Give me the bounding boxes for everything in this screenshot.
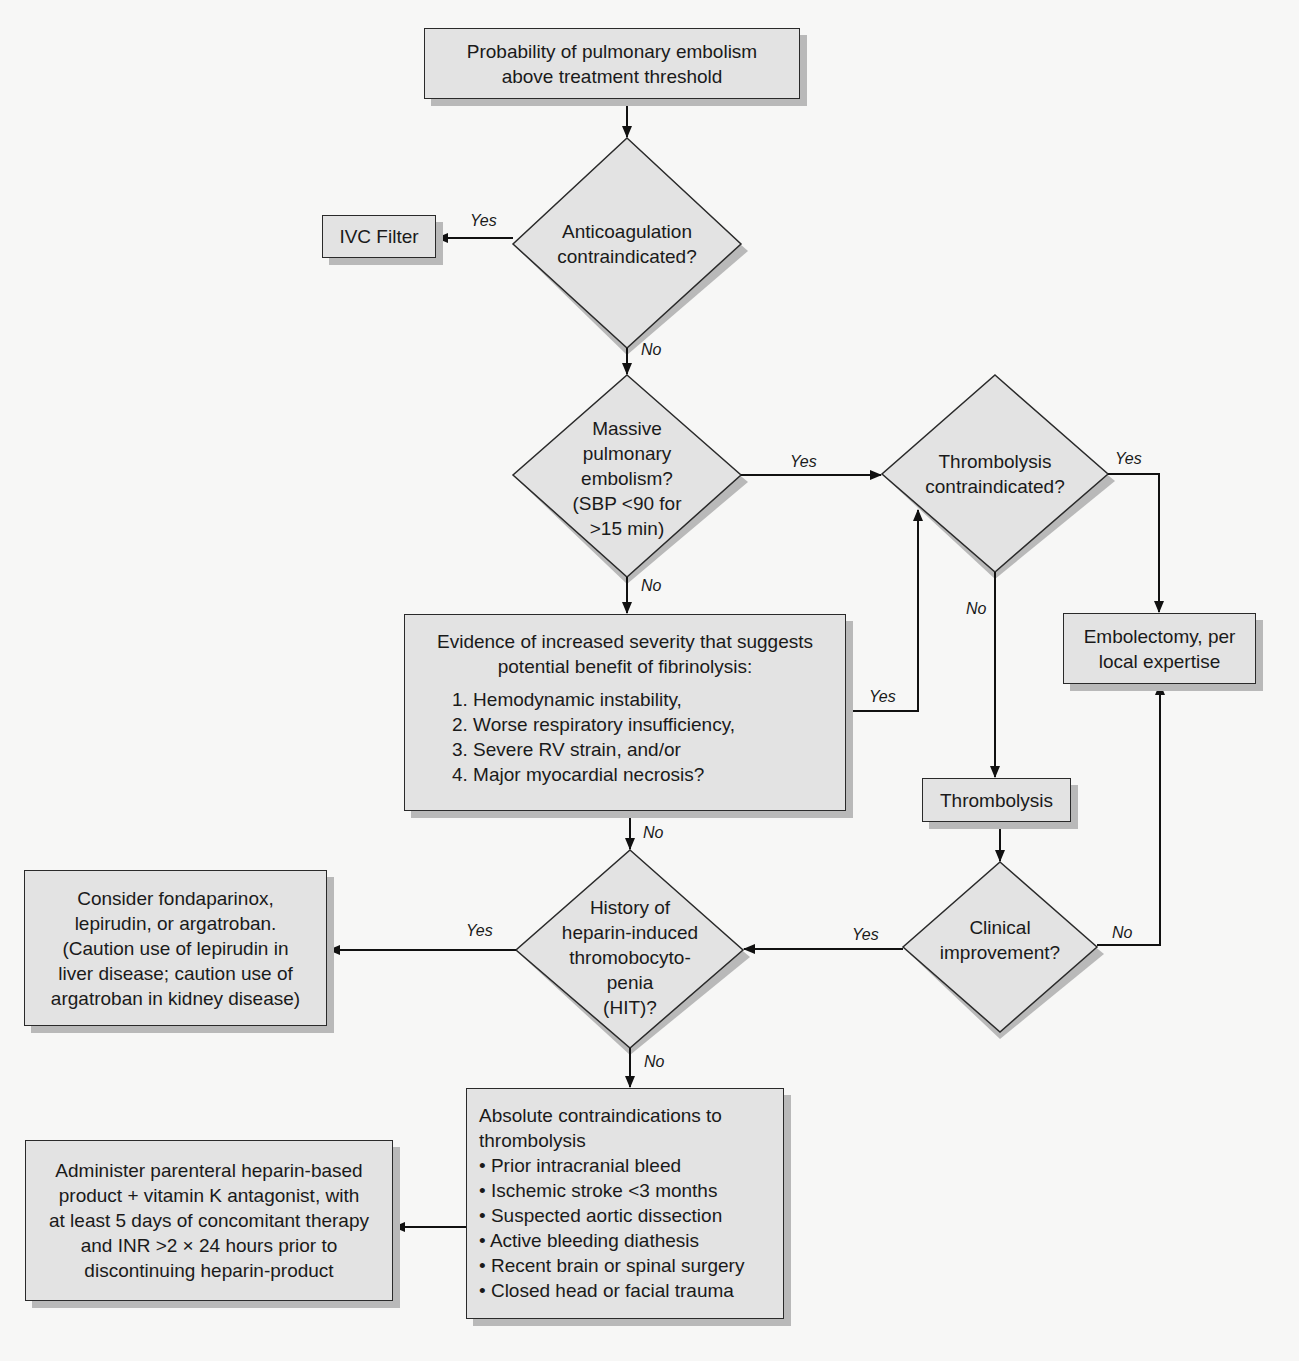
severity-criteria-list: 1. Hemodynamic instability, 2. Worse res… — [452, 687, 735, 787]
node-text: (SBP <90 for — [573, 491, 682, 516]
node-text: argatroban in kidney disease) — [51, 986, 300, 1011]
start-node: Probability of pulmonary embolism above … — [424, 28, 800, 99]
node-text: IVC Filter — [339, 224, 418, 249]
node-text: Consider fondaparinox, — [77, 886, 273, 911]
node-text: at least 5 days of concomitant therapy — [49, 1208, 369, 1233]
hit-decision-text: History of heparin-induced thromobocyto-… — [540, 893, 720, 1021]
node-text: Massive — [592, 416, 662, 441]
node-text: above treatment threshold — [502, 64, 723, 89]
node-text: thromobocyto- — [569, 945, 690, 970]
edge-label-no: No — [1112, 924, 1132, 942]
massive-pe-decision-text: Massive pulmonary embolism? (SBP <90 for… — [537, 411, 717, 545]
node-text: contraindicated? — [557, 244, 696, 269]
node-heading: Absolute contraindications to — [479, 1103, 722, 1128]
edge-label-yes: Yes — [1115, 450, 1142, 468]
thrombolysis-node: Thrombolysis — [922, 778, 1071, 822]
node-text: and INR >2 × 24 hours prior to — [81, 1233, 338, 1258]
arrow-evidence-yes-thrombo-contra — [846, 510, 918, 711]
node-text: (Caution use of lepirudin in — [62, 936, 288, 961]
edge-label-yes: Yes — [790, 453, 817, 471]
edge-label-no: No — [966, 600, 986, 618]
list-item: • Suspected aortic dissection — [479, 1203, 722, 1228]
absolute-contraindications-node: Absolute contraindications to thrombolys… — [466, 1088, 784, 1319]
node-text: contraindicated? — [925, 474, 1064, 499]
node-text: (HIT)? — [603, 995, 657, 1020]
node-text: liver disease; caution use of — [58, 961, 292, 986]
node-heading: potential benefit of fibrinolysis: — [498, 654, 753, 679]
node-text: >15 min) — [590, 516, 664, 541]
node-text: embolism? — [581, 466, 673, 491]
ivc-filter-node: IVC Filter — [322, 215, 436, 258]
node-text: Anticoagulation — [562, 219, 692, 244]
list-item: • Recent brain or spinal surgery — [479, 1253, 744, 1278]
list-item: • Prior intracranial bleed — [479, 1153, 681, 1178]
node-text: improvement? — [940, 940, 1060, 965]
list-item: 1. Hemodynamic instability, — [452, 687, 735, 712]
node-text: Administer parenteral heparin-based — [55, 1158, 362, 1183]
node-heading: thrombolysis — [479, 1128, 586, 1153]
node-text: heparin-induced — [562, 920, 698, 945]
node-text: Probability of pulmonary embolism — [467, 39, 757, 64]
node-text: Thrombolysis — [939, 449, 1052, 474]
flowchart-canvas: Yes No Yes No Yes No Yes No No Yes Yes N… — [0, 0, 1299, 1361]
list-item: 4. Major myocardial necrosis? — [452, 762, 735, 787]
edge-label-no: No — [643, 824, 663, 842]
node-text: product + vitamin K antagonist, with — [59, 1183, 359, 1208]
arrow-clinical-no-embolectomy — [1097, 684, 1160, 945]
list-item: 2. Worse respiratory insufficiency, — [452, 712, 735, 737]
edge-label-yes: Yes — [869, 688, 896, 706]
edge-label-yes: Yes — [470, 212, 497, 230]
embolectomy-node: Embolectomy, per local expertise — [1063, 613, 1256, 684]
node-text: penia — [607, 970, 654, 995]
edge-label-yes: Yes — [852, 926, 879, 944]
list-item: • Closed head or facial trauma — [479, 1278, 734, 1303]
edge-label-no: No — [641, 577, 661, 595]
clinical-improvement-decision-text: Clinical improvement? — [910, 914, 1090, 966]
node-text: local expertise — [1099, 649, 1220, 674]
node-text: discontinuing heparin-product — [84, 1258, 333, 1283]
alternative-anticoagulants-node: Consider fondaparinox, lepirudin, or arg… — [24, 870, 327, 1026]
list-item: • Active bleeding diathesis — [479, 1228, 699, 1253]
node-text: pulmonary — [583, 441, 672, 466]
list-item: • Ischemic stroke <3 months — [479, 1178, 717, 1203]
anticoag-decision-text: Anticoagulation contraindicated? — [527, 204, 727, 284]
edge-label-no: No — [641, 341, 661, 359]
node-text: Thrombolysis — [940, 788, 1053, 813]
node-text: Clinical — [969, 915, 1030, 940]
edge-label-no: No — [644, 1053, 664, 1071]
node-text: lepirudin, or argatroban. — [75, 911, 277, 936]
thrombolysis-contra-decision-text: Thrombolysis contraindicated? — [895, 448, 1095, 500]
node-text: Embolectomy, per — [1084, 624, 1236, 649]
node-heading: Evidence of increased severity that sugg… — [437, 629, 813, 654]
heparin-therapy-node: Administer parenteral heparin-based prod… — [25, 1140, 393, 1301]
edge-label-yes: Yes — [466, 922, 493, 940]
list-item: 3. Severe RV strain, and/or — [452, 737, 735, 762]
node-text: History of — [590, 895, 670, 920]
arrow-thrombo-contra-yes-embolectomy — [1108, 474, 1159, 612]
severity-evidence-node: Evidence of increased severity that sugg… — [404, 614, 846, 811]
